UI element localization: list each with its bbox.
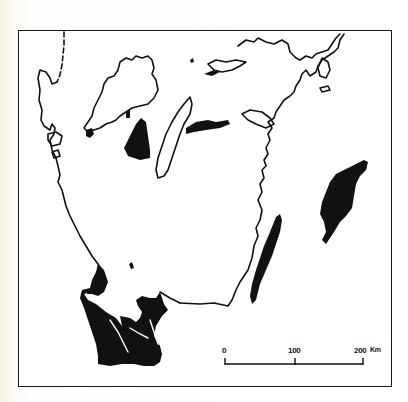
island-gotland xyxy=(320,160,368,244)
national-border-dashed xyxy=(57,32,64,82)
lake-black-west xyxy=(124,118,150,160)
west-coast-islet-2 xyxy=(52,150,60,158)
small-island-ne xyxy=(320,86,330,92)
scale-tick-0: 0 xyxy=(222,346,226,355)
scale-tick-100: 100 xyxy=(288,346,300,355)
dot-central xyxy=(129,262,134,269)
skane-inlet xyxy=(86,294,92,298)
scale-unit: Km xyxy=(370,346,381,353)
lake-black-vanern-tip xyxy=(86,128,94,138)
lake-black-east xyxy=(186,120,230,134)
region-skane xyxy=(80,264,168,366)
lake-vattern-outline xyxy=(156,97,192,178)
island-oland xyxy=(250,214,282,304)
dot-north xyxy=(190,58,194,63)
mainland-coastline xyxy=(38,34,344,306)
scale-bar xyxy=(225,358,363,365)
lake-malaren-outline xyxy=(238,34,340,60)
map-canvas xyxy=(0,0,408,402)
scale-tick-200: 200 xyxy=(354,346,366,355)
lake-east-outline xyxy=(242,110,274,128)
lake-vanern-outline xyxy=(84,56,158,132)
map-page: 0 100 200 Km xyxy=(0,0,408,402)
stockholm-archipelago xyxy=(318,58,330,78)
